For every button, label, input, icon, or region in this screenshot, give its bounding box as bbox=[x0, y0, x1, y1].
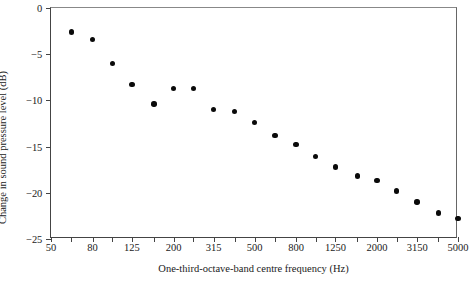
x-tick-mark bbox=[51, 237, 52, 242]
data-point bbox=[252, 120, 257, 125]
y-tick-label: −5 bbox=[31, 49, 42, 60]
data-point bbox=[191, 86, 196, 91]
x-tick-mark bbox=[275, 237, 276, 242]
x-tick-mark bbox=[193, 237, 194, 242]
x-tick-mark bbox=[154, 237, 155, 242]
x-tick-label: 50 bbox=[46, 242, 57, 253]
y-tick-label: −15 bbox=[26, 141, 42, 152]
x-tick-label: 1250 bbox=[325, 242, 346, 253]
data-point bbox=[69, 29, 74, 34]
y-tick-mark bbox=[46, 239, 51, 240]
data-point bbox=[151, 101, 156, 106]
x-tick-mark bbox=[112, 237, 113, 242]
x-tick-mark bbox=[335, 237, 336, 242]
x-tick-mark bbox=[71, 237, 72, 242]
x-tick-mark bbox=[132, 237, 133, 242]
x-tick-mark bbox=[417, 237, 418, 242]
data-point bbox=[211, 107, 216, 112]
x-tick-mark bbox=[214, 237, 215, 242]
data-point bbox=[394, 188, 399, 193]
y-axis-title: Change in sound pressure level (dB) bbox=[0, 71, 8, 224]
data-point bbox=[355, 173, 360, 178]
x-tick-mark bbox=[438, 237, 439, 242]
x-tick-mark bbox=[255, 237, 256, 242]
x-axis-title: One-third-octave-band centre frequency (… bbox=[50, 263, 457, 274]
data-point bbox=[436, 210, 441, 215]
x-tick-mark bbox=[296, 237, 297, 242]
x-tick-mark bbox=[458, 237, 459, 242]
plot-area: 0−5−10−15−20−25 508012520031550080012502… bbox=[50, 7, 457, 238]
data-points-layer bbox=[51, 8, 456, 237]
data-point bbox=[90, 37, 95, 42]
x-tick-label: 500 bbox=[247, 242, 263, 253]
x-tick-mark bbox=[235, 237, 236, 242]
data-point bbox=[313, 154, 318, 159]
x-tick-mark bbox=[316, 237, 317, 242]
x-tick-mark bbox=[357, 237, 358, 242]
x-tick-label: 2000 bbox=[367, 242, 388, 253]
data-point bbox=[293, 142, 298, 147]
x-tick-mark bbox=[377, 237, 378, 242]
y-tick-label: −20 bbox=[26, 187, 42, 198]
x-tick-label: 200 bbox=[166, 242, 182, 253]
x-tick-mark bbox=[93, 237, 94, 242]
x-tick-label: 3150 bbox=[407, 242, 428, 253]
data-point bbox=[171, 86, 176, 91]
x-tick-label: 315 bbox=[206, 242, 222, 253]
x-tick-label: 5000 bbox=[448, 242, 469, 253]
data-point bbox=[414, 199, 419, 204]
y-tick-label: 0 bbox=[37, 3, 42, 14]
x-tick-label: 80 bbox=[87, 242, 98, 253]
data-point bbox=[455, 216, 460, 221]
data-point bbox=[129, 82, 134, 87]
x-tick-label: 125 bbox=[124, 242, 140, 253]
data-point bbox=[272, 133, 277, 138]
x-tick-label: 800 bbox=[288, 242, 304, 253]
data-point bbox=[333, 164, 338, 169]
data-point bbox=[232, 109, 237, 114]
x-tick-mark bbox=[174, 237, 175, 242]
data-point bbox=[110, 61, 115, 66]
data-point bbox=[374, 178, 379, 183]
y-tick-label: −25 bbox=[26, 234, 42, 245]
x-tick-mark bbox=[397, 237, 398, 242]
y-tick-label: −10 bbox=[26, 95, 42, 106]
